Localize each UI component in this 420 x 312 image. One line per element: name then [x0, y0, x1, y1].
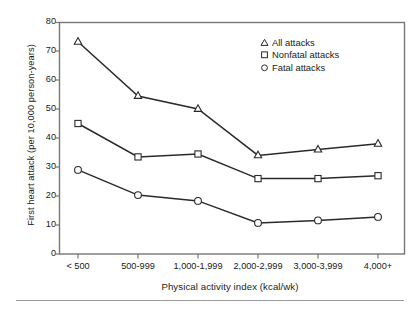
series-nonfatal-attacks-markers — [75, 120, 381, 181]
plot-canvas — [0, 0, 420, 312]
series-nonfatal-attacks — [75, 120, 381, 181]
chart-legend: All attacks Nonfatal attacks Fatal attac… — [258, 36, 339, 74]
circle-marker-icon — [258, 63, 271, 72]
series-fatal-attacks-markers — [75, 167, 382, 227]
legend-label-all-attacks: All attacks — [271, 37, 315, 48]
legend-label-nonfatal-attacks: Nonfatal attacks — [271, 49, 339, 60]
square-marker-icon — [258, 50, 271, 59]
legend-item-nonfatal-attacks: Nonfatal attacks — [258, 49, 339, 62]
triangle-marker-icon — [258, 38, 271, 47]
bottom-divider — [16, 300, 404, 301]
legend-item-all-attacks: All attacks — [258, 36, 339, 49]
series-fatal-attacks — [75, 167, 382, 227]
legend-item-fatal-attacks: Fatal attacks — [258, 61, 339, 74]
legend-label-fatal-attacks: Fatal attacks — [271, 62, 325, 73]
chart-figure: First heart attack (per 10,000 person-ye… — [0, 0, 420, 312]
plot-frame — [60, 23, 405, 255]
